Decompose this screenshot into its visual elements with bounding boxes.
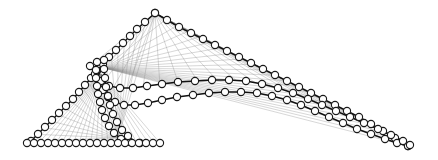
node-marker — [297, 101, 304, 108]
node-marker — [104, 92, 111, 99]
node-marker — [325, 113, 332, 120]
node-marker — [106, 101, 113, 108]
envelope-figure-svg — [0, 0, 438, 160]
node-marker — [253, 89, 260, 96]
node-marker — [199, 35, 206, 42]
node-marker — [51, 139, 58, 146]
node-marker — [144, 99, 151, 106]
node-marker — [406, 141, 413, 148]
node-marker — [118, 126, 125, 133]
node-marker — [274, 84, 281, 91]
node-marker — [30, 139, 37, 146]
node-marker — [96, 98, 103, 105]
node-marker — [41, 123, 48, 130]
node-marker — [98, 106, 105, 113]
node-marker — [37, 139, 44, 146]
node-marker — [107, 139, 114, 146]
node-marker — [221, 88, 228, 95]
node-marker — [332, 107, 339, 114]
node-marker — [211, 41, 218, 48]
node-marker — [34, 130, 41, 137]
node-marker — [151, 9, 158, 16]
node-marker — [110, 129, 117, 136]
node-marker — [187, 29, 194, 36]
node-marker — [235, 53, 242, 60]
node-marker — [141, 18, 148, 25]
node-marker — [81, 81, 88, 88]
node-marker — [223, 47, 230, 54]
node-marker — [126, 32, 133, 39]
node-marker — [119, 39, 126, 46]
node-marker — [75, 88, 82, 95]
node-marker — [191, 77, 198, 84]
node-marker — [225, 76, 232, 83]
node-marker — [318, 101, 325, 108]
node-marker — [121, 139, 128, 146]
node-marker — [44, 139, 51, 146]
node-marker — [131, 101, 138, 108]
node-marker — [295, 83, 302, 90]
node-marker — [114, 139, 121, 146]
node-marker — [237, 88, 244, 95]
node-marker — [189, 91, 196, 98]
node-marker — [289, 89, 296, 96]
node-marker — [283, 77, 290, 84]
node-marker — [367, 120, 374, 127]
node-marker — [120, 101, 127, 108]
node-marker — [113, 118, 120, 125]
node-marker — [367, 130, 374, 137]
node-marker — [124, 132, 131, 139]
node-marker — [174, 78, 181, 85]
node-marker — [304, 95, 311, 102]
node-marker — [143, 82, 150, 89]
node-marker — [353, 125, 360, 132]
node-marker — [149, 139, 156, 146]
node-marker — [156, 139, 163, 146]
node-marker — [271, 71, 278, 78]
node-marker — [72, 139, 79, 146]
node-marker — [55, 109, 62, 116]
node-marker — [360, 119, 367, 126]
node-marker — [128, 139, 135, 146]
node-marker — [129, 84, 136, 91]
node-marker — [311, 107, 318, 114]
node-marker — [163, 16, 170, 23]
node-marker — [283, 96, 290, 103]
node-marker — [86, 139, 93, 146]
node-marker — [258, 80, 265, 87]
node-marker — [116, 84, 123, 91]
node-marker — [346, 113, 353, 120]
node-marker — [205, 89, 212, 96]
node-marker — [242, 77, 249, 84]
node-marker — [65, 139, 72, 146]
node-marker — [355, 113, 362, 120]
node-marker — [387, 131, 394, 138]
node-marker — [101, 114, 108, 121]
node-marker — [135, 139, 142, 146]
node-marker — [58, 139, 65, 146]
node-marker — [93, 139, 100, 146]
node-marker — [105, 122, 112, 129]
node-marker — [175, 23, 182, 30]
node-marker — [48, 116, 55, 123]
node-marker — [102, 83, 109, 90]
node-marker — [100, 139, 107, 146]
figure-root — [0, 0, 438, 160]
node-marker — [100, 56, 107, 63]
node-marker — [374, 125, 381, 132]
node-marker — [158, 80, 165, 87]
node-marker — [259, 65, 266, 72]
node-marker — [247, 59, 254, 66]
node-marker — [93, 82, 100, 89]
node-marker — [142, 139, 149, 146]
node-marker — [92, 66, 99, 73]
node-marker — [92, 74, 99, 81]
node-marker — [101, 74, 108, 81]
node-marker — [93, 58, 100, 65]
node-marker — [339, 119, 346, 126]
node-marker — [94, 90, 101, 97]
node-marker — [133, 25, 140, 32]
node-marker — [109, 110, 116, 117]
node-marker — [173, 93, 180, 100]
node-marker — [79, 139, 86, 146]
